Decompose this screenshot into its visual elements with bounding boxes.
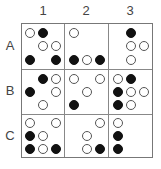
dot-slot	[93, 85, 106, 98]
dot-slot	[24, 72, 37, 85]
hollow-circle-icon	[126, 87, 136, 97]
dot-slot	[137, 99, 150, 112]
dot-slot	[24, 99, 37, 112]
hollow-circle-icon	[82, 55, 92, 65]
row-label-b: B	[2, 83, 18, 99]
dot-slot	[137, 26, 150, 40]
dot-slot	[49, 26, 62, 40]
hollow-circle-icon	[51, 87, 61, 97]
filled-circle-icon	[126, 28, 136, 38]
hollow-circle-icon	[95, 74, 105, 84]
dot-slot	[67, 99, 80, 112]
dot-slot	[37, 40, 50, 54]
dot-slot	[124, 85, 137, 98]
dot-slot	[37, 85, 50, 98]
dot-slot	[80, 99, 93, 112]
dot-slot	[137, 53, 150, 67]
dot-slot	[111, 40, 124, 54]
hollow-circle-icon	[139, 87, 149, 97]
dot-slot	[24, 53, 37, 67]
dot-slot	[137, 85, 150, 98]
filled-circle-icon	[69, 100, 79, 110]
filled-circle-icon	[126, 74, 136, 84]
filled-circle-icon	[95, 144, 105, 154]
dot-slot	[93, 72, 106, 85]
hollow-circle-icon	[82, 144, 92, 154]
dot-slot	[111, 117, 124, 130]
dot-slot	[80, 142, 93, 155]
hollow-circle-icon	[51, 74, 61, 84]
dot-slot	[37, 142, 50, 155]
dot-slot	[67, 142, 80, 155]
filled-circle-icon	[113, 131, 123, 141]
dot-slot	[24, 40, 37, 54]
dot-slot	[137, 142, 150, 155]
row-label-a: A	[2, 38, 18, 54]
dot-slot	[80, 130, 93, 143]
dot-slot	[93, 40, 106, 54]
dot-slot	[80, 40, 93, 54]
dot-slot	[67, 26, 80, 40]
dot-slot	[49, 130, 62, 143]
dot-slot	[111, 72, 124, 85]
dot-slot	[49, 99, 62, 112]
dot-slot	[137, 117, 150, 130]
hollow-circle-icon	[25, 118, 35, 128]
cell-a3	[109, 24, 152, 70]
dot-slot	[37, 130, 50, 143]
dot-slot	[93, 26, 106, 40]
filled-circle-icon	[95, 55, 105, 65]
column-label-3: 3	[108, 3, 152, 19]
dot-slot	[37, 117, 50, 130]
dot-slot	[124, 142, 137, 155]
dot-slot	[67, 72, 80, 85]
dot-slot	[80, 117, 93, 130]
hollow-circle-icon	[126, 100, 136, 110]
dot-slot	[111, 142, 124, 155]
hollow-circle-icon	[38, 144, 48, 154]
dot-slot	[124, 130, 137, 143]
filled-circle-icon	[25, 55, 35, 65]
column-label-2: 2	[64, 3, 108, 19]
filled-circle-icon	[25, 87, 35, 97]
hollow-circle-icon	[126, 55, 136, 65]
dot-slot	[93, 130, 106, 143]
dot-slot	[24, 26, 37, 40]
dot-slot	[37, 53, 50, 67]
dot-slot	[111, 26, 124, 40]
dot-slot	[80, 85, 93, 98]
dot-slot	[124, 53, 137, 67]
dot-slot	[49, 72, 62, 85]
dot-slot	[67, 53, 80, 67]
dot-slot	[80, 26, 93, 40]
dot-slot	[24, 117, 37, 130]
dot-slot	[24, 130, 37, 143]
hollow-circle-icon	[82, 131, 92, 141]
dot-slot	[24, 85, 37, 98]
hollow-circle-icon	[113, 118, 123, 128]
dot-slot	[24, 142, 37, 155]
hollow-circle-icon	[38, 41, 48, 51]
cell-b3	[109, 70, 152, 115]
filled-circle-icon	[38, 28, 48, 38]
dot-slot	[137, 130, 150, 143]
dot-slot	[49, 117, 62, 130]
dot-slot	[93, 53, 106, 67]
cell-c1	[22, 115, 65, 157]
dot-slot	[67, 85, 80, 98]
filled-circle-icon	[69, 55, 79, 65]
dot-slot	[49, 85, 62, 98]
filled-circle-icon	[113, 144, 123, 154]
cell-b1	[22, 70, 65, 115]
filled-circle-icon	[51, 55, 61, 65]
puzzle-grid	[21, 23, 153, 158]
hollow-circle-icon	[38, 131, 48, 141]
hollow-circle-icon	[126, 41, 136, 51]
dot-slot	[93, 142, 106, 155]
dot-slot	[80, 72, 93, 85]
hollow-circle-icon	[51, 41, 61, 51]
dot-slot	[124, 72, 137, 85]
filled-circle-icon	[38, 74, 48, 84]
hollow-circle-icon	[139, 41, 149, 51]
dot-slot	[67, 117, 80, 130]
